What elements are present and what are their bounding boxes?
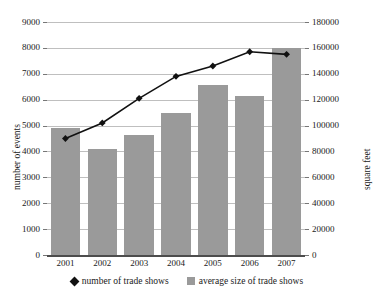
legend-item-bar: average size of trade shows [187, 276, 303, 286]
bar [124, 135, 153, 255]
axis-tick-left [43, 177, 47, 178]
y-axis-left-tick-label: 4000 [0, 147, 40, 156]
axis-tick-left [43, 48, 47, 49]
axis-tick-right [305, 177, 309, 178]
gridline [47, 255, 305, 257]
axis-tick-left [43, 255, 47, 256]
axis-tick-left [43, 126, 47, 127]
y-axis-right-tick-label: 140000 [312, 69, 360, 78]
y-axis-right-tick-label: 160000 [312, 43, 360, 52]
data-point-marker [209, 63, 216, 70]
legend-item-line: number of trade shows [71, 276, 169, 286]
gridline [47, 22, 305, 23]
legend-label-line: number of trade shows [82, 276, 169, 286]
bar [272, 48, 301, 255]
y-axis-left-tick-label: 0 [0, 251, 40, 260]
axis-tick-right [305, 229, 309, 230]
y-axis-left-tick-label: 1000 [0, 225, 40, 234]
y-axis-left-tick-label: 8000 [0, 43, 40, 52]
y-axis-right-tick-label: 20000 [312, 225, 360, 234]
axis-tick-left [43, 100, 47, 101]
x-axis-tick-label: 2004 [156, 258, 196, 268]
y-axis-title-right: square feet [362, 149, 372, 190]
axis-tick-left [43, 203, 47, 204]
axis-tick-right [305, 151, 309, 152]
axis-tick-right [305, 74, 309, 75]
legend-label-bar: average size of trade shows [199, 276, 303, 286]
axis-tick-right [305, 22, 309, 23]
axis-tick-right [305, 48, 309, 49]
x-axis-tick-label: 2007 [267, 258, 307, 268]
gridline [47, 74, 305, 75]
bar [88, 149, 117, 255]
axis-tick-left [43, 74, 47, 75]
x-axis-tick-label: 2003 [119, 258, 159, 268]
axis-tick-right [305, 255, 309, 256]
bar [51, 128, 80, 255]
bar [161, 113, 190, 255]
y-axis-left-tick-label: 6000 [0, 95, 40, 104]
axis-tick-right [305, 100, 309, 101]
y-axis-left-tick-label: 7000 [0, 69, 40, 78]
data-point-marker [136, 95, 143, 102]
axis-tick-left [43, 229, 47, 230]
x-axis-tick-label: 2006 [230, 258, 270, 268]
data-point-marker [246, 48, 253, 55]
y-axis-right-tick-label: 100000 [312, 121, 360, 130]
gridline [47, 100, 305, 101]
bar [235, 96, 264, 255]
x-axis-tick-label: 2001 [45, 258, 85, 268]
chart-container: number of events square feet 01000200030… [0, 0, 374, 296]
bar-swatch-icon [187, 277, 195, 285]
axis-tick-left [43, 151, 47, 152]
y-axis-right-tick-label: 0 [312, 251, 360, 260]
y-axis-right-tick-label: 180000 [312, 18, 360, 27]
diamond-marker-icon [69, 276, 79, 286]
axis-tick-right [305, 203, 309, 204]
bar [198, 85, 227, 255]
y-axis-left-tick-label: 2000 [0, 199, 40, 208]
gridline [47, 48, 305, 49]
plot-area [47, 22, 305, 255]
axis-tick-right [305, 126, 309, 127]
axis-tick-left [43, 22, 47, 23]
y-axis-left-tick-label: 5000 [0, 121, 40, 130]
y-axis-right-tick-label: 120000 [312, 95, 360, 104]
y-axis-right-tick-label: 40000 [312, 199, 360, 208]
x-axis-tick-label: 2002 [82, 258, 122, 268]
chart-legend: number of trade shows average size of tr… [0, 276, 374, 286]
y-axis-right-tick-label: 60000 [312, 173, 360, 182]
x-axis-tick-label: 2005 [193, 258, 233, 268]
y-axis-left-tick-label: 9000 [0, 18, 40, 27]
y-axis-right-tick-label: 80000 [312, 147, 360, 156]
y-axis-left-tick-label: 3000 [0, 173, 40, 182]
